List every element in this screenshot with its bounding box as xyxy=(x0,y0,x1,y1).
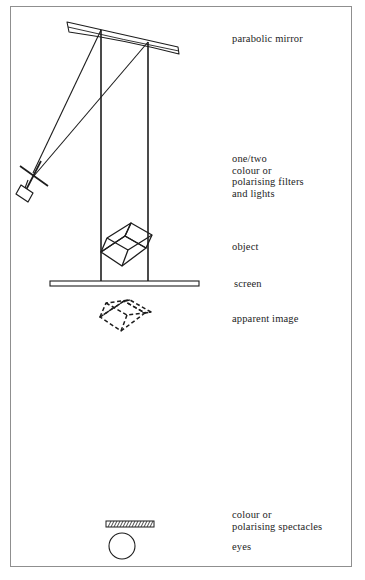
object-cube xyxy=(101,223,152,266)
spectacles-bar xyxy=(106,521,154,527)
label-screen: screen xyxy=(234,278,262,290)
light-source-assembly xyxy=(16,161,48,202)
light-ray-left xyxy=(33,30,101,173)
screen-bar-rect xyxy=(50,281,199,286)
apparent-image-cube xyxy=(100,300,151,331)
diagram-page: parabolic mirror one/two colour or polar… xyxy=(0,0,365,580)
label-spectacles: colour or polarising spectacles xyxy=(232,509,322,532)
eye-circle xyxy=(109,533,135,559)
label-object: object xyxy=(232,241,259,253)
parabolic-mirror-curve xyxy=(68,27,179,51)
label-filters-and-lights: one/two colour or polarising filters and… xyxy=(232,153,304,199)
apparent-cube-back-edges xyxy=(106,303,151,331)
optical-diagram-svg xyxy=(0,0,365,580)
apparent-cube-right-face xyxy=(124,300,151,313)
lamp-body-shape xyxy=(16,185,33,202)
label-eyes: eyes xyxy=(232,541,251,553)
filter-bar-b xyxy=(26,161,41,190)
object-cube-back-edges xyxy=(107,235,152,266)
parabolic-mirror-shape xyxy=(67,22,179,54)
light-ray-right xyxy=(33,42,148,177)
label-apparent-image: apparent image xyxy=(232,313,299,325)
screen-bar xyxy=(50,281,199,286)
label-parabolic-mirror: parabolic mirror xyxy=(232,33,303,45)
